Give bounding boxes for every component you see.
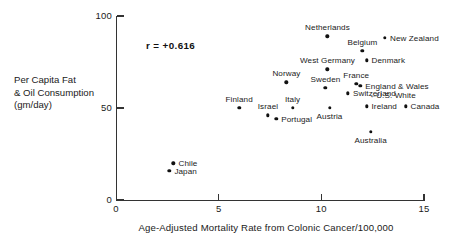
data-point: [324, 86, 327, 89]
data-point: [326, 68, 329, 71]
data-point: [285, 81, 288, 84]
x-axis-tick-label: 10: [309, 203, 333, 214]
data-point-label: U.S. White: [376, 91, 416, 100]
data-point-label: Portugal: [281, 115, 312, 124]
correlation-annotation: r = +0.616: [146, 40, 195, 51]
data-point-label: Norway: [272, 69, 300, 78]
data-point: [266, 114, 269, 117]
data-point: [328, 106, 331, 109]
data-point-label: Austria: [317, 112, 343, 121]
y-axis-tick-label: 100: [82, 10, 112, 21]
data-point-label: Canada: [411, 102, 440, 111]
data-point-label: West Germany: [300, 56, 355, 65]
data-point-label: New Zealand: [390, 34, 439, 43]
data-point-label: Denmark: [372, 56, 406, 65]
data-point-label: Sweden: [311, 75, 341, 84]
y-axis-tick-label: 50: [82, 102, 112, 113]
data-point: [369, 130, 372, 133]
y-axis-tick: [117, 107, 124, 108]
x-axis-tick-label: 5: [207, 203, 231, 214]
data-point-label: Finland: [226, 95, 253, 104]
data-point: [326, 35, 329, 38]
x-axis-tick: [218, 194, 219, 201]
data-point: [237, 106, 240, 109]
data-point: [172, 161, 175, 164]
data-point-label: Italy: [285, 95, 300, 104]
data-point: [365, 104, 368, 107]
data-point-label: Belgium: [347, 38, 377, 47]
data-point: [346, 92, 349, 95]
data-point: [365, 58, 368, 61]
x-axis-line: [116, 200, 425, 201]
y-axis-tick: [117, 15, 124, 16]
data-point: [383, 36, 386, 39]
data-point-label: Ireland: [372, 102, 397, 111]
data-point-label: Australia: [354, 136, 386, 145]
data-point-label: France: [343, 71, 369, 80]
x-axis-tick: [423, 194, 424, 201]
data-point: [274, 117, 277, 120]
x-axis-tick: [321, 194, 322, 201]
data-point: [291, 106, 294, 109]
data-point-label: Netherlands: [305, 23, 350, 32]
data-point: [404, 104, 407, 107]
scatter-plot: Per Capita Fat & Oil Consumption (gm/day…: [0, 0, 452, 243]
x-axis-tick-label: 0: [104, 203, 128, 214]
data-point: [355, 82, 358, 85]
y-axis-tick: [117, 199, 124, 200]
data-point-label: Israel: [258, 102, 278, 111]
data-point: [168, 169, 171, 172]
x-axis-tick-label: 15: [412, 203, 436, 214]
data-point: [359, 84, 362, 87]
data-point-label: Japan: [174, 166, 197, 175]
x-axis-title: Age-Adjusted Mortality Rate from Colonic…: [96, 222, 436, 233]
data-point: [361, 49, 364, 52]
